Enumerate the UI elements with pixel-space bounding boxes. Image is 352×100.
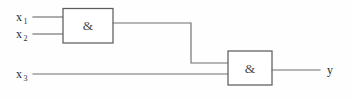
input-subscript-x1: 1 bbox=[24, 17, 28, 26]
input-subscript-x2: 2 bbox=[24, 34, 28, 43]
input-subscript-x3: 3 bbox=[24, 74, 28, 83]
circuit-canvas: & & x 1 x 2 x 3 y bbox=[0, 0, 352, 100]
input-label-x1: x bbox=[16, 10, 22, 24]
input-label-x2: x bbox=[16, 27, 22, 41]
gate-1-symbol: & bbox=[83, 18, 94, 33]
logic-circuit-diagram: & & x 1 x 2 x 3 y bbox=[0, 0, 352, 100]
wire-n1 bbox=[113, 23, 228, 63]
gate-2-symbol: & bbox=[245, 61, 256, 76]
output-label-y: y bbox=[327, 63, 333, 77]
input-label-x3: x bbox=[16, 67, 22, 81]
